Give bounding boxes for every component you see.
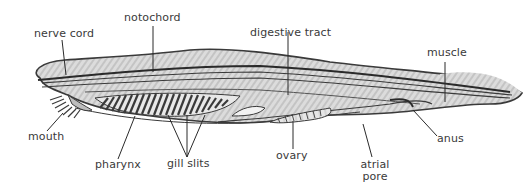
leader-mouth — [47, 113, 63, 131]
label-anus: anus — [437, 133, 464, 145]
label-mouth: mouth — [28, 131, 64, 143]
lancelet-diagram: nerve cord notochord digestive tract mus… — [0, 0, 531, 193]
label-nerve-cord: nerve cord — [34, 28, 94, 40]
leader-atrial-pore — [363, 124, 372, 157]
label-muscle: muscle — [427, 47, 467, 59]
label-atrial-pore: atrial pore — [355, 159, 395, 183]
label-gill-slits: gill slits — [167, 158, 210, 170]
label-pharynx: pharynx — [95, 159, 141, 171]
leader-anus — [413, 110, 437, 136]
leader-pharynx — [118, 116, 135, 159]
label-ovary: ovary — [276, 150, 308, 162]
label-notochord: notochord — [124, 12, 181, 24]
label-digestive-tract: digestive tract — [250, 27, 331, 39]
leader-gill-slits-1 — [168, 115, 187, 157]
label-atrial-pore-line2: pore — [355, 171, 395, 183]
